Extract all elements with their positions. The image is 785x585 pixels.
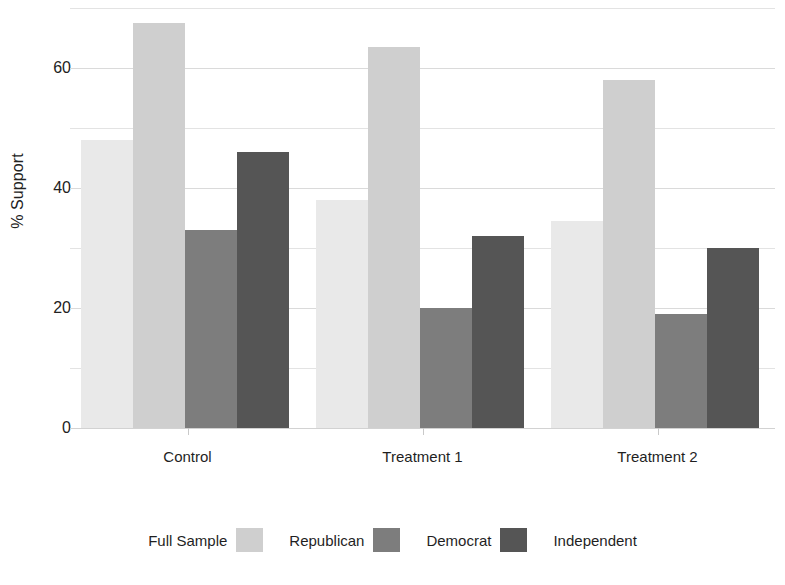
bar — [237, 152, 289, 428]
x-axis-label: Treatment 2 — [548, 448, 768, 465]
y-tick-label: 20 — [11, 299, 71, 317]
bar — [81, 140, 133, 428]
bar — [368, 47, 420, 428]
x-axis-tick — [423, 428, 424, 435]
legend-swatch — [236, 528, 263, 552]
bar — [655, 314, 707, 428]
y-tick-label: 60 — [11, 59, 71, 77]
bar — [316, 200, 368, 428]
bar — [185, 230, 237, 428]
bar-group — [540, 8, 775, 428]
bar — [133, 23, 185, 428]
legend-item[interactable]: Democrat — [426, 528, 527, 552]
bar — [603, 80, 655, 428]
legend-item[interactable]: Full Sample — [148, 528, 263, 552]
legend-label: Full Sample — [148, 532, 227, 549]
bar — [707, 248, 759, 428]
legend-item[interactable]: Independent — [553, 532, 636, 549]
bar — [551, 221, 603, 428]
bar-series-layer — [70, 8, 775, 428]
bar-chart-figure: % Support 0204060 ControlTreatment 1Trea… — [0, 0, 785, 585]
chart-legend: Full SampleRepublicanDemocratIndependent — [0, 528, 785, 552]
x-axis-label: Control — [78, 448, 298, 465]
bar-group — [70, 8, 305, 428]
legend-label: Independent — [553, 532, 636, 549]
x-axis-tick — [658, 428, 659, 435]
legend-label: Democrat — [426, 532, 491, 549]
legend-swatch — [373, 528, 400, 552]
y-tick-label: 0 — [11, 419, 71, 437]
bar — [472, 236, 524, 428]
x-axis-label: Treatment 1 — [313, 448, 533, 465]
legend-label: Republican — [289, 532, 364, 549]
y-tick-label: 40 — [11, 179, 71, 197]
bar-group — [305, 8, 540, 428]
legend-swatch — [500, 528, 527, 552]
x-axis-tick — [188, 428, 189, 435]
plot-area — [70, 8, 775, 428]
bar — [420, 308, 472, 428]
legend-item[interactable]: Republican — [289, 528, 400, 552]
